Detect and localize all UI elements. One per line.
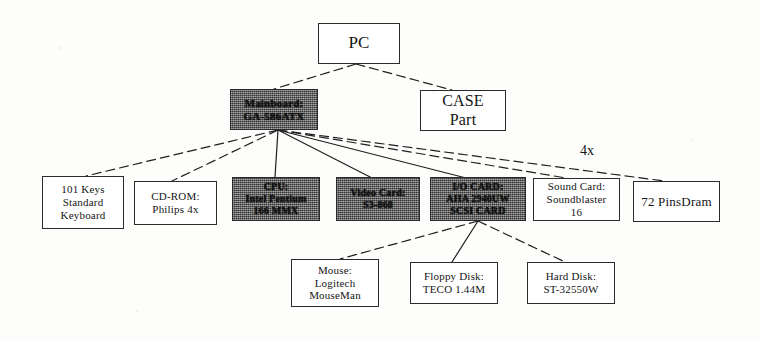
node-io-card-line: SCSI CARD — [450, 205, 505, 217]
node-keyboard-line: Standard — [63, 196, 104, 209]
node-case-part[interactable]: CASEPart — [420, 90, 506, 131]
node-mainboard-line: GA-586ATX — [244, 110, 305, 123]
edge-mainboard-videocard — [278, 130, 374, 179]
node-video-card-line: Video Card: — [351, 187, 406, 199]
node-floppy-disk-line: TECO 1.44M — [423, 283, 486, 296]
node-floppy-disk[interactable]: Floppy Disk:TECO 1.44M — [410, 262, 498, 304]
node-cpu-line: 166 MMX — [254, 205, 299, 217]
edge-iocard-harddisk — [478, 221, 565, 262]
node-keyboard-line: 101 Keys — [61, 183, 104, 196]
node-keyboard[interactable]: 101 KeysStandardKeyboard — [42, 176, 124, 229]
edge-pc-case — [356, 64, 452, 90]
edge-mainboard-cpu — [275, 130, 278, 177]
node-sound-card-line: Sound Card: — [548, 180, 606, 193]
node-io-card-line: I/O CARD: — [453, 181, 504, 193]
edge-pc-mainboard — [274, 64, 356, 89]
edge-label-4x: 4x — [580, 143, 594, 159]
node-sound-card-line: Soundblaster — [547, 193, 607, 206]
node-hard-disk[interactable]: Hard Disk:ST-32550W — [527, 262, 615, 304]
node-mouse-line: MouseMan — [309, 289, 361, 302]
node-mouse-line: Logitech — [315, 277, 356, 290]
node-case-part-line: CASE — [442, 92, 484, 111]
node-sound-card[interactable]: Sound Card:Soundblaster16 — [533, 178, 620, 221]
node-io-card[interactable]: I/O CARD:AHA 2940UWSCSI CARD — [430, 177, 526, 221]
node-cpu-line: Intel Pentium — [245, 193, 306, 205]
node-dram-line: 72 PinsDram — [641, 194, 711, 209]
node-io-card-line: AHA 2940UW — [446, 193, 509, 205]
node-hard-disk-line: ST-32550W — [543, 283, 598, 296]
node-pc-line: PC — [348, 33, 369, 53]
node-cd-rom-line: Philips 4x — [152, 203, 198, 216]
edge-mainboard-dram — [278, 130, 664, 181]
node-dram[interactable]: 72 PinsDram — [633, 181, 720, 222]
edge-mainboard-iocard — [278, 130, 470, 179]
edge-mainboard-cdrom — [172, 130, 278, 181]
node-mainboard[interactable]: Mainboard:GA-586ATX — [230, 89, 318, 130]
pc-component-diagram: PCMainboard:GA-586ATXCASEPart101 KeysSta… — [0, 0, 761, 342]
edge-mainboard-soundcard — [278, 130, 566, 178]
node-video-card-line: S3-868 — [363, 199, 393, 211]
node-cd-rom[interactable]: CD-ROM:Philips 4x — [134, 181, 217, 225]
node-cpu-line: CPU: — [264, 181, 289, 193]
edge-mainboard-keyboard — [86, 130, 278, 176]
node-floppy-disk-line: Floppy Disk: — [424, 270, 484, 283]
node-video-card[interactable]: Video Card:S3-868 — [336, 177, 420, 221]
node-mainboard-line: Mainboard: — [245, 97, 304, 110]
node-case-part-line: Part — [450, 111, 477, 130]
node-keyboard-line: Keyboard — [61, 209, 106, 222]
node-mouse-line: Mouse: — [318, 264, 352, 277]
node-cd-rom-line: CD-ROM: — [151, 190, 199, 203]
node-pc[interactable]: PC — [318, 23, 400, 64]
node-hard-disk-line: Hard Disk: — [546, 270, 597, 283]
node-sound-card-line: 16 — [571, 206, 582, 219]
node-cpu[interactable]: CPU:Intel Pentium166 MMX — [232, 177, 320, 221]
node-mouse[interactable]: Mouse:LogitechMouseMan — [291, 259, 379, 307]
